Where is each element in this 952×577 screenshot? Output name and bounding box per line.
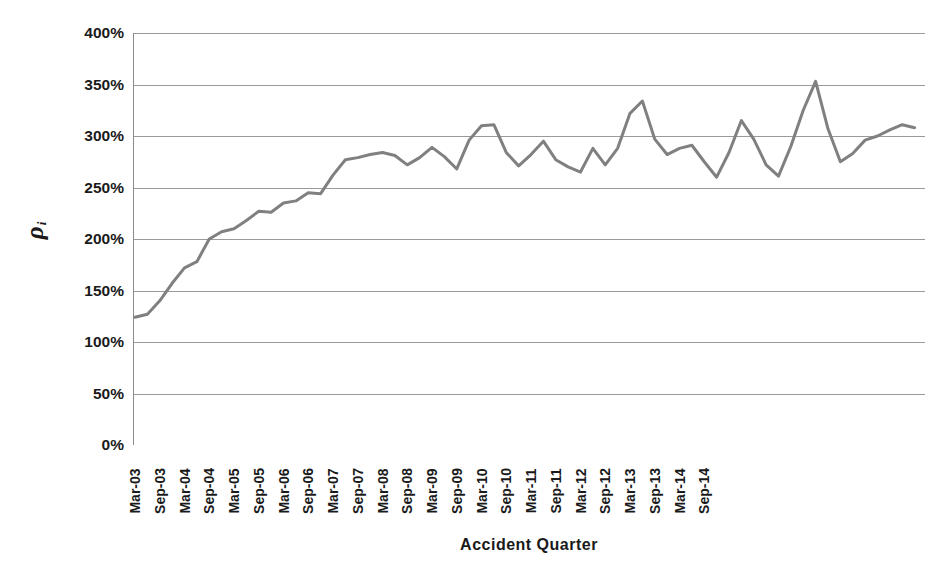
x-axis-tick-label-text: Sep-10 [498,468,514,514]
x-axis-tick-label-text: Mar-14 [672,468,688,513]
x-axis-tick-label: Mar-05 [227,454,241,524]
y-axis-tick-label: 150% [64,283,124,299]
x-axis-tick-label: Sep-05 [252,454,266,524]
y-axis-title-text: ρi [21,223,49,240]
y-axis-tick-labels: 0%50%100%150%200%250%300%350%400% [62,0,124,577]
x-axis-tick-label-text: Sep-08 [399,468,415,514]
x-axis-tick-label: Sep-07 [351,454,365,524]
x-axis-tick-label-text: Sep-11 [548,468,564,513]
y-axis-tick-label: 50% [64,386,124,402]
x-axis-tick-label-text: Sep-13 [647,468,663,514]
y-axis-tick-label: 300% [64,128,124,144]
x-axis-tick-label: Sep-12 [598,454,612,524]
x-axis-tick-label-text: Sep-04 [201,468,217,514]
x-axis-tick-label: Sep-04 [202,454,216,524]
x-axis-tick-label-text: Sep-05 [251,468,267,514]
x-axis-tick-label: Mar-11 [524,454,538,524]
y-axis-tick-label: 200% [64,231,124,247]
x-axis-tick-label-text: Sep-12 [597,468,613,514]
x-axis-tick-label-text: Mar-09 [424,468,440,513]
x-axis-tick-label-text: Sep-06 [300,468,316,514]
x-axis-tick-label: Sep-10 [499,454,513,524]
x-axis-tick-label: Mar-14 [673,454,687,524]
x-axis-tick-label: Sep-08 [400,454,414,524]
x-axis-tick-label-text: Mar-11 [523,469,539,513]
x-axis-tick-label-text: Sep-14 [696,468,712,514]
x-axis-tick-label-text: Mar-07 [325,468,341,513]
x-axis-tick-label: Sep-09 [450,454,464,524]
x-axis-tick-label-text: Mar-13 [622,468,638,513]
data-series-line [135,81,915,317]
x-axis-tick-label-text: Sep-03 [152,468,168,514]
y-axis-rho-glyph: ρ [21,226,48,239]
y-axis-tick-label: 250% [64,180,124,196]
x-axis-tick-label-text: Mar-04 [177,468,193,513]
x-axis-tick-label: Mar-09 [425,454,439,524]
y-axis-tick-label: 400% [64,25,124,41]
chart-container: ρi 0%50%100%150%200%250%300%350%400% Mar… [0,0,952,577]
y-axis-tick-label: 100% [64,334,124,350]
x-axis-tick-labels: Mar-03Sep-03Mar-04Sep-04Mar-05Sep-05Mar-… [133,448,925,528]
x-axis-tick-label-text: Mar-08 [375,468,391,513]
x-axis-tick-label: Sep-03 [153,454,167,524]
x-axis-tick-label: Mar-06 [277,454,291,524]
x-axis-tick-label-text: Mar-12 [573,468,589,513]
x-axis-tick-label: Sep-06 [301,454,315,524]
x-axis-tick-label-text: Sep-09 [449,468,465,514]
x-axis-tick-label-text: Mar-06 [276,468,292,513]
x-axis-tick-label-text: Mar-03 [127,468,143,513]
x-axis-tick-label: Mar-13 [623,454,637,524]
y-axis-subscript: i [34,222,49,226]
y-axis-tick-label: 0% [64,437,124,453]
x-axis-tick-label: Sep-14 [697,454,711,524]
x-axis-tick-label: Mar-07 [326,454,340,524]
x-axis-tick-label-text: Mar-10 [474,468,490,513]
x-axis-tick-label-text: Sep-07 [350,468,366,514]
gridlines [133,34,925,446]
x-axis-tick-label: Mar-12 [574,454,588,524]
x-axis-tick-label: Sep-11 [549,454,563,524]
x-axis-tick-label: Mar-08 [376,454,390,524]
y-axis-title: ρi [0,196,70,266]
x-axis-tick-label: Mar-03 [128,454,142,524]
x-axis-tick-label: Mar-04 [178,454,192,524]
y-axis-tick-label: 350% [64,77,124,93]
x-axis-tick-label-text: Mar-05 [226,468,242,513]
x-axis-tick-label: Sep-13 [648,454,662,524]
chart-svg [133,33,925,445]
x-axis-title: Accident Quarter [133,536,925,554]
plot-area [133,33,925,445]
x-axis-tick-label: Mar-10 [475,454,489,524]
